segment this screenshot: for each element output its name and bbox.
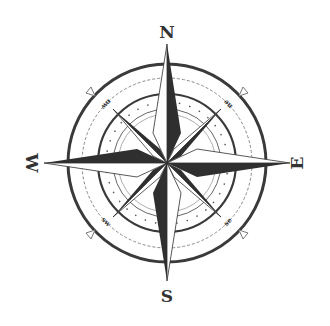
point-e-light-icon xyxy=(167,149,290,163)
point-w-light-icon xyxy=(44,163,167,177)
label-east: E xyxy=(287,156,307,169)
compass-rose-figure: N S W E nw ne sw se xyxy=(0,0,330,326)
triangle-ne-icon xyxy=(239,87,248,96)
label-west: W xyxy=(22,152,42,173)
triangle-sw-icon xyxy=(86,230,95,239)
center-pivot xyxy=(166,162,169,165)
compass-rose-graphic: N S W E nw ne sw se xyxy=(0,0,330,326)
label-southeast: se xyxy=(221,215,234,228)
label-south: S xyxy=(161,286,173,306)
triangle-nw-icon xyxy=(86,87,95,96)
label-northwest: nw xyxy=(99,97,114,112)
triangle-se-icon xyxy=(239,230,248,239)
label-north: N xyxy=(159,22,175,42)
point-e-dark-icon xyxy=(167,163,290,177)
